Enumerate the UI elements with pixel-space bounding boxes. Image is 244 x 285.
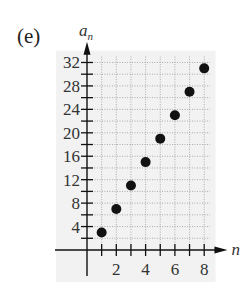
data-point	[111, 204, 121, 214]
data-point	[141, 157, 151, 167]
x-tick-label: 2	[112, 260, 121, 279]
y-axis-label: an	[79, 21, 94, 42]
y-tick-label: 28	[63, 77, 80, 96]
y-tick-label: 12	[63, 171, 80, 190]
data-point	[185, 87, 195, 97]
y-tick-label: 24	[63, 100, 81, 119]
y-axis-arrow-icon	[84, 42, 91, 55]
y-tick-label: 8	[72, 194, 81, 213]
x-axis-arrow-icon	[214, 247, 227, 254]
scatter-chart: 481216202428322468ann	[0, 0, 244, 285]
y-tick-label: 20	[63, 124, 80, 143]
data-point	[199, 63, 209, 73]
x-tick-label: 6	[171, 260, 180, 279]
data-point	[170, 110, 180, 120]
y-tick-label: 32	[63, 53, 80, 72]
data-point	[155, 134, 165, 144]
y-tick-label: 16	[63, 147, 80, 166]
data-point	[97, 227, 107, 237]
data-point	[126, 181, 136, 191]
x-tick-label: 8	[200, 260, 209, 279]
x-tick-label: 4	[141, 260, 150, 279]
x-axis-label: n	[231, 240, 240, 259]
y-tick-label: 4	[72, 218, 81, 237]
